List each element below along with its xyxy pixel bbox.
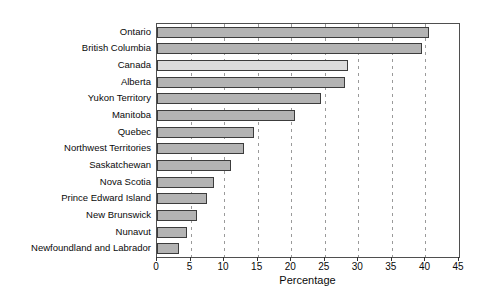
category-label-newfoundland-and-labrador: Newfoundland and Labrador [2,242,151,253]
bar-manitoba [157,110,295,121]
x-tick-label-20: 20 [285,261,296,272]
category-label-quebec: Quebec [2,126,151,137]
gridline-x-25 [325,24,326,257]
gridline-x-20 [291,24,292,257]
bar-canada [157,60,348,71]
bar-quebec [157,127,254,138]
x-axis-title: Percentage [156,274,459,286]
bar-chart-figure: OntarioBritish ColumbiaCanadaAlbertaYuko… [0,0,482,306]
plot-area [156,23,460,258]
category-label-manitoba: Manitoba [2,109,151,120]
x-tick-label-5: 5 [187,261,193,272]
x-tick-label-25: 25 [318,261,329,272]
category-label-nunavut: Nunavut [2,226,151,237]
bar-nova-scotia [157,177,214,188]
category-label-new-brunswick: New Brunswick [2,209,151,220]
gridline-x-35 [392,24,393,257]
category-label-northwest-territories: Northwest Territories [2,142,151,153]
bar-ontario [157,27,429,38]
gridline-x-15 [258,24,259,257]
category-label-british-columbia: British Columbia [2,42,151,53]
bar-yukon-territory [157,93,321,104]
x-tick-label-40: 40 [419,261,430,272]
bar-prince-edward-island [157,193,207,204]
gridline-x-5 [191,24,192,257]
x-tick-label-15: 15 [251,261,262,272]
x-tick-label-35: 35 [385,261,396,272]
gridline-x-30 [358,24,359,257]
bar-nunavut [157,227,187,238]
x-tick-label-0: 0 [153,261,159,272]
bar-newfoundland-and-labrador [157,243,179,254]
x-tick-label-45: 45 [452,261,463,272]
x-tick-label-30: 30 [352,261,363,272]
category-label-saskatchewan: Saskatchewan [2,159,151,170]
gridline-x-10 [224,24,225,257]
category-label-canada: Canada [2,59,151,70]
bar-new-brunswick [157,210,197,221]
category-label-yukon-territory: Yukon Territory [2,92,151,103]
category-label-nova-scotia: Nova Scotia [2,176,151,187]
x-tick-label-10: 10 [218,261,229,272]
bar-saskatchewan [157,160,231,171]
category-label-prince-edward-island: Prince Edward Island [2,192,151,203]
category-label-ontario: Ontario [2,26,151,37]
bar-british-columbia [157,43,422,54]
gridline-x-40 [425,24,426,257]
category-label-alberta: Alberta [2,76,151,87]
bar-alberta [157,77,345,88]
bar-northwest-territories [157,143,244,154]
